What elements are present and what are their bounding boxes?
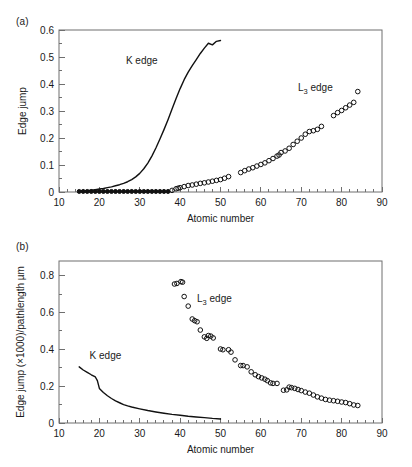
panel-b-label: (b) xyxy=(16,241,29,252)
x-tick-label: 80 xyxy=(336,197,348,208)
data-point xyxy=(355,89,360,94)
y-axis-tick-labels-b: 00.20.40.60.8 xyxy=(40,270,54,428)
y-axis-ticks-a xyxy=(59,30,65,192)
y-tick-label: 0.3 xyxy=(40,106,54,117)
panel-b-plot: 10203040506070809000.20.40.60.8K edgeL3 … xyxy=(0,233,412,467)
x-tick-label: 60 xyxy=(255,197,267,208)
data-point xyxy=(97,189,101,193)
x-tick-label: 10 xyxy=(53,197,65,208)
annotations-a: K edgeL3 edge xyxy=(126,55,333,96)
x-axis-title-b: Atomic number xyxy=(187,444,255,455)
y-axis-ticks-b xyxy=(59,276,65,423)
data-curve xyxy=(79,367,220,419)
data-point xyxy=(114,189,118,193)
x-tick-label: 20 xyxy=(94,428,106,439)
data-point xyxy=(138,189,142,193)
x-tick-label: 40 xyxy=(175,428,187,439)
data-point xyxy=(122,189,126,193)
data-point xyxy=(126,189,130,193)
x-tick-label: 70 xyxy=(296,428,308,439)
y-tick-label: 0.4 xyxy=(40,79,54,90)
y-tick-label: 0.5 xyxy=(40,52,54,63)
y-tick-label: 0.2 xyxy=(40,133,54,144)
figure-container: (a) 10203040506070809000.10.20.30.40.50.… xyxy=(0,0,412,467)
series-2 xyxy=(170,89,360,192)
x-tick-label: 70 xyxy=(296,197,308,208)
y-tick-label: 0.1 xyxy=(40,160,54,171)
data-point xyxy=(299,136,304,141)
data-point xyxy=(158,189,162,193)
data-point xyxy=(109,189,113,193)
panel-a-label: (a) xyxy=(16,16,29,27)
x-tick-label: 30 xyxy=(134,197,146,208)
data-point xyxy=(186,304,191,309)
data-point xyxy=(233,358,238,363)
panel-a: (a) 10203040506070809000.10.20.30.40.50.… xyxy=(0,0,412,234)
data-point xyxy=(287,146,292,151)
data-point xyxy=(154,189,158,193)
data-point xyxy=(142,189,146,193)
x-tick-label: 50 xyxy=(215,197,227,208)
data-point xyxy=(93,189,97,193)
data-point xyxy=(291,142,296,147)
data-point xyxy=(198,328,203,333)
data-point xyxy=(182,294,187,299)
y-tick-label: 0 xyxy=(48,187,54,198)
plot-frame-a xyxy=(59,30,382,192)
x-tick-label: 10 xyxy=(53,428,65,439)
series-annotation: K edge xyxy=(126,55,158,66)
data-point xyxy=(146,189,150,193)
x-tick-label: 20 xyxy=(94,197,106,208)
data-point xyxy=(319,124,324,129)
data-point xyxy=(134,189,138,193)
x-axis-tick-labels-a: 102030405060708090 xyxy=(53,197,388,208)
y-axis-title-a: Edge jump xyxy=(17,87,28,135)
series-annotation: K edge xyxy=(90,350,122,361)
y-tick-label: 0.2 xyxy=(40,381,54,392)
y-tick-label: 0.8 xyxy=(40,270,54,281)
y-axis-title-b: Edge jump (×1000)/pathlength µm xyxy=(15,266,26,418)
data-point xyxy=(226,174,231,179)
y-tick-label: 0.6 xyxy=(40,307,54,318)
series-annotation: L3 edge xyxy=(197,293,232,307)
svg-text:Edge jump: Edge jump xyxy=(17,87,28,135)
data-point xyxy=(130,189,134,193)
data-point xyxy=(118,189,122,193)
series-annotation: L3 edge xyxy=(298,82,333,96)
data-point xyxy=(351,100,356,105)
series-0 xyxy=(79,367,220,419)
x-tick-label: 30 xyxy=(134,428,146,439)
x-tick-label: 80 xyxy=(336,428,348,439)
data-point xyxy=(101,189,105,193)
x-tick-label: 40 xyxy=(175,197,187,208)
x-tick-label: 90 xyxy=(376,428,388,439)
x-tick-label: 60 xyxy=(255,428,267,439)
x-tick-label: 90 xyxy=(376,197,388,208)
annotations-b: K edgeL3 edge xyxy=(90,293,233,361)
svg-text:Edge jump (×1000)/pathlength µ: Edge jump (×1000)/pathlength µm xyxy=(15,266,26,418)
y-tick-label: 0 xyxy=(48,418,54,429)
panel-b: (b) 10203040506070809000.20.40.60.8K edg… xyxy=(0,233,412,467)
data-point xyxy=(81,189,85,193)
data-point xyxy=(105,189,109,193)
x-axis-title-a: Atomic number xyxy=(187,213,255,224)
data-point xyxy=(85,189,89,193)
y-tick-label: 0.6 xyxy=(40,25,54,36)
y-axis-tick-labels-a: 00.10.20.30.40.50.6 xyxy=(40,25,54,198)
y-tick-label: 0.4 xyxy=(40,344,54,355)
data-point xyxy=(295,139,300,144)
x-tick-label: 50 xyxy=(215,428,227,439)
series-1 xyxy=(77,189,170,193)
data-point xyxy=(89,189,93,193)
data-point xyxy=(77,189,81,193)
data-point xyxy=(150,189,154,193)
x-axis-tick-labels-b: 102030405060708090 xyxy=(53,428,388,439)
panel-a-plot: 10203040506070809000.10.20.30.40.50.6K e… xyxy=(0,0,412,234)
data-point xyxy=(162,189,166,193)
